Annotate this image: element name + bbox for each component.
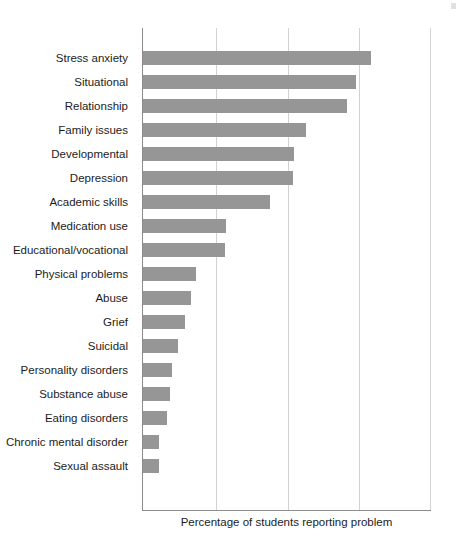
bar <box>143 363 172 377</box>
bar-row: Depression <box>0 166 462 190</box>
bar-row: Medication use <box>0 214 462 238</box>
category-label: Personality disorders <box>21 358 128 382</box>
bar-track <box>143 315 185 329</box>
bar-chart-figure: Stress anxietySituationalRelationshipFam… <box>0 0 462 548</box>
bar-row: Physical problems <box>0 262 462 286</box>
bar-rows: Stress anxietySituationalRelationshipFam… <box>0 46 462 478</box>
bar-track <box>143 75 356 89</box>
bar-track <box>143 291 191 305</box>
category-label: Developmental <box>51 142 128 166</box>
bar-row: Educational/vocational <box>0 238 462 262</box>
bar <box>143 267 196 281</box>
bar-track <box>143 171 293 185</box>
bar <box>143 435 159 449</box>
category-label: Chronic mental disorder <box>6 430 128 454</box>
category-label: Sexual assault <box>53 454 128 478</box>
category-label: Situational <box>74 70 128 94</box>
category-label: Substance abuse <box>39 382 128 406</box>
category-label: Grief <box>103 310 128 334</box>
bar-row: Chronic mental disorder <box>0 430 462 454</box>
category-label: Relationship <box>65 94 128 118</box>
bar-track <box>143 243 225 257</box>
bar-row: Suicidal <box>0 334 462 358</box>
bar-track <box>143 459 159 473</box>
bar <box>143 51 371 65</box>
bar-row: Substance abuse <box>0 382 462 406</box>
bar <box>143 219 226 233</box>
bar-track <box>143 51 371 65</box>
bar-track <box>143 123 306 137</box>
bar-track <box>143 147 294 161</box>
category-label: Physical problems <box>35 262 128 286</box>
bar-track <box>143 99 347 113</box>
category-label: Educational/vocational <box>13 238 128 262</box>
bar <box>143 147 294 161</box>
bar <box>143 195 270 209</box>
bar-row: Family issues <box>0 118 462 142</box>
category-label: Stress anxiety <box>56 46 128 70</box>
bar-row: Situational <box>0 70 462 94</box>
bar-row: Sexual assault <box>0 454 462 478</box>
bar <box>143 123 306 137</box>
bar <box>143 315 185 329</box>
bar <box>143 171 293 185</box>
x-axis-title: Percentage of students reporting problem <box>142 516 431 528</box>
bar <box>143 75 356 89</box>
scan-artifact <box>451 3 456 9</box>
bar-row: Abuse <box>0 286 462 310</box>
bar-row: Eating disorders <box>0 406 462 430</box>
bar-row: Academic skills <box>0 190 462 214</box>
category-label: Eating disorders <box>45 406 128 430</box>
x-axis-line <box>142 510 431 511</box>
category-label: Depression <box>70 166 128 190</box>
category-label: Academic skills <box>49 190 128 214</box>
bar-row: Personality disorders <box>0 358 462 382</box>
category-label: Abuse <box>95 286 128 310</box>
bar-track <box>143 195 270 209</box>
bar-row: Relationship <box>0 94 462 118</box>
bar-track <box>143 411 167 425</box>
bar-track <box>143 435 159 449</box>
category-label: Medication use <box>51 214 128 238</box>
bar-row: Grief <box>0 310 462 334</box>
bar-track <box>143 219 226 233</box>
bar-track <box>143 267 196 281</box>
bar <box>143 339 178 353</box>
bar <box>143 411 167 425</box>
bar <box>143 387 170 401</box>
bar <box>143 243 225 257</box>
category-label: Suicidal <box>88 334 128 358</box>
category-label: Family issues <box>58 118 128 142</box>
bar-track <box>143 339 178 353</box>
bar-track <box>143 387 170 401</box>
bar <box>143 459 159 473</box>
bar-row: Stress anxiety <box>0 46 462 70</box>
bar <box>143 99 347 113</box>
bar <box>143 291 191 305</box>
bar-track <box>143 363 172 377</box>
bar-row: Developmental <box>0 142 462 166</box>
